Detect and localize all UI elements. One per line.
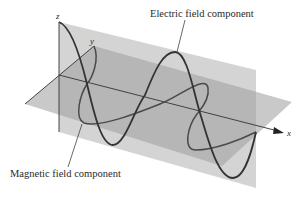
y-axis-label: y [90,36,94,46]
electric-leader-line [177,20,185,52]
electric-field-label: Electric field component [150,8,254,19]
x-axis-label: x [287,128,291,138]
x-axis-arrow-icon [273,127,284,134]
em-wave-diagram: Electric field component Magnetic field … [0,0,300,197]
z-axis-label: z [56,11,60,21]
magnetic-field-label: Magnetic field component [10,168,121,179]
